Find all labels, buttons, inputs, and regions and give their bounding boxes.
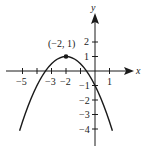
x-tick-label: −5	[16, 76, 27, 87]
x-tick-label: −3	[45, 76, 56, 87]
chart-canvas: −5 −3 −2 −1 1 2 1 −2 −3 −4 x y (−2, 1)	[0, 0, 142, 148]
vertex-label: (−2, 1)	[48, 38, 75, 50]
y-axis-label: y	[90, 2, 96, 13]
y-tick-label: −2	[79, 95, 90, 106]
parabola-chart: −5 −3 −2 −1 1 2 1 −2 −3 −4 x y (−2, 1)	[0, 0, 142, 148]
x-tick-label: −2	[60, 76, 71, 87]
x-axis-label: x	[135, 65, 141, 76]
parabola-curve	[20, 57, 113, 131]
x-tick-label: 1	[107, 76, 112, 87]
y-tick-label: 2	[84, 36, 89, 47]
x-tick-label: −1	[79, 80, 90, 91]
y-tick-label: −3	[79, 109, 90, 120]
vertex-point	[64, 54, 69, 59]
y-tick-label: 1	[84, 51, 89, 62]
y-tick-label: −4	[79, 124, 90, 135]
